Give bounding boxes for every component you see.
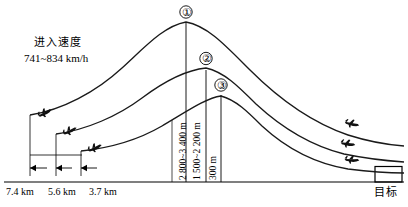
aircraft-entry-1-icon	[36, 106, 53, 119]
distance-arrow-group	[30, 165, 97, 171]
aircraft-exit-1-icon	[343, 117, 360, 131]
entry-speed-value: 741~834 km/h	[24, 52, 88, 64]
peak-marker-2: ②	[202, 52, 212, 64]
peak-marker-1: ①	[182, 6, 192, 18]
target-label: 目标	[374, 186, 397, 198]
distance-label-2: 5.6 km	[48, 186, 76, 197]
trajectory-profile-figure: 进入速度 741~834 km/h ① ② ③ 2 800~3 400 m 1 …	[0, 0, 408, 207]
altitude-label-1: 2 800~3 400 m	[178, 108, 188, 180]
distance-label-1: 7.4 km	[6, 186, 34, 197]
entry-speed-label: 进入速度	[34, 36, 82, 48]
altitude-label-2: 1 500~2 200 m	[192, 108, 202, 180]
aircraft-exit-2-icon	[340, 137, 357, 150]
trajectory-curve-2	[56, 68, 404, 162]
altitude-label-3: 300 m	[208, 135, 218, 180]
distance-label-3: 3.7 km	[89, 186, 117, 197]
target-box	[375, 167, 402, 183]
peak-marker-3: ③	[217, 79, 227, 91]
diagram-canvas	[0, 0, 408, 207]
